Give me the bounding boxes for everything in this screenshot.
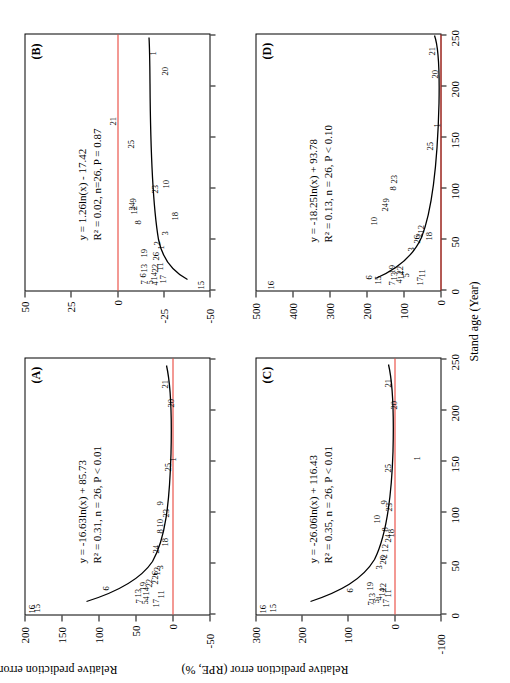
panel-d-point: 17 [415,277,424,286]
panel-d-xtickmark [441,238,446,239]
panel-d-point: 20 [430,70,439,79]
figure-page: (A) y = -16.63ln(x) + 85.73 R² = 0.31, n… [0,0,510,683]
panel-d-xtick-200: 200 [448,81,460,98]
panel-d-point: 25 [425,142,434,151]
panel-d-xtickmark [441,136,446,137]
panel-d-xtick-100: 100 [448,183,460,200]
panel-d-point: 23 [389,175,398,184]
panel-d-point: 3 [406,247,415,251]
x-axis-title: Stand age (Year) [466,281,481,361]
panel-d-point: 9 [381,198,390,202]
panel-d-point: 11 [417,269,426,277]
panel-d-xtick-50: 50 [448,236,460,247]
y-axis-title-bottom: Relative prediction error (RPE, %) [181,661,348,676]
panel-d-point: 22 [395,266,404,275]
panel-d-xtick-250: 250 [448,30,460,47]
panel-d-xtickmark [441,187,446,188]
figure: (A) y = -16.63ln(x) + 85.73 R² = 0.31, n… [0,0,510,683]
y-axis-title-top: Relative prediction error (RPE, %) [0,661,117,676]
panel-d-point: 16 [266,281,275,290]
panel-d-xtickmark [441,34,446,35]
panel-d-point: 8 [388,186,397,190]
panel-d-point: 15 [373,276,382,285]
panel-d-point: 10 [369,217,378,226]
panel-d-point: 24 [380,203,389,212]
panel-d-point: 18 [424,232,433,241]
panel-d-curve [0,0,510,683]
panel-d-xtickmark [441,289,446,290]
rotated-figure-wrapper: (A) y = -16.63ln(x) + 85.73 R² = 0.31, n… [0,0,510,683]
panel-d-xtickmark [441,85,446,86]
panel-d-xtick-150: 150 [448,132,460,149]
panel-d-point: 21 [427,47,436,56]
panel-d-point: 1 [432,123,441,127]
panel-d-point: 6 [364,275,373,279]
panel-d-xtick-0: 0 [448,289,460,295]
